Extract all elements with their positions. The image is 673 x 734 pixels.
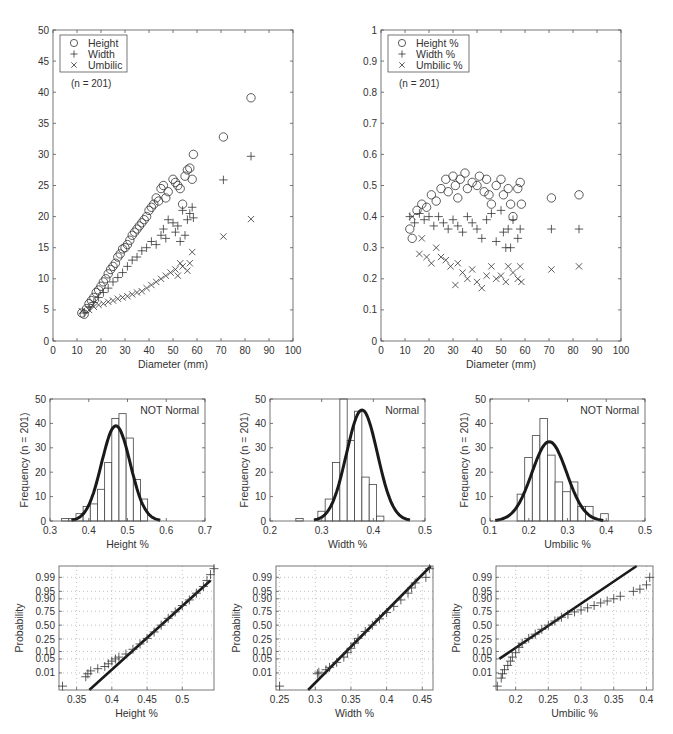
x-tick-label: 100 — [613, 345, 630, 356]
x-tick-label: 0.3 — [308, 694, 322, 705]
y-axis-label: Frequency (n = 201) — [458, 413, 470, 508]
probplot-height-chart: 0.350.40.450.50.010.050.100.250.500.750.… — [13, 564, 219, 719]
plus-marker — [616, 592, 625, 601]
plus-marker — [473, 225, 481, 233]
y-tick-label: 0.99 — [473, 572, 493, 583]
circle-marker — [480, 188, 488, 196]
x-tick-label: 0.3 — [574, 694, 588, 705]
plus-marker — [404, 589, 413, 598]
x-marker — [503, 279, 509, 285]
x-tick-label: 0.4 — [82, 525, 96, 536]
plus-marker — [247, 152, 255, 160]
x-tick-label: 70 — [215, 345, 227, 356]
x-marker — [455, 260, 461, 266]
y-tick-label: 0.25 — [253, 634, 273, 645]
y-axis-label: Probability — [450, 603, 462, 653]
y-tick-label: 0 — [371, 336, 377, 347]
series-umbilic — [79, 216, 255, 314]
y-tick-label: 15 — [38, 242, 50, 253]
x-marker — [134, 289, 140, 295]
x-tick-label: 0.35 — [604, 694, 624, 705]
plus-marker — [497, 206, 505, 214]
y-tick-label: 0.1 — [363, 304, 377, 315]
normality-annotation: NOT Normal — [140, 404, 199, 416]
plus-marker — [444, 225, 452, 233]
x-tick-label: 0 — [378, 345, 384, 356]
y-tick-label: 10 — [35, 491, 47, 502]
x-marker — [518, 279, 524, 285]
x-tick-label: 40 — [471, 345, 483, 356]
histogram-bar — [548, 455, 556, 521]
histogram-bar — [362, 477, 369, 521]
plus-marker — [463, 212, 471, 220]
x-tick-label: 0.35 — [341, 694, 361, 705]
histogram-bar — [532, 436, 540, 521]
x-marker — [124, 293, 130, 299]
plus-marker — [506, 244, 514, 252]
x-tick-label: 0.4 — [640, 694, 654, 705]
x-marker — [447, 263, 453, 269]
scatter-mm-chart: 0102030405060708090100051015202530354045… — [38, 25, 302, 371]
x-marker — [119, 294, 125, 300]
plus-marker — [609, 594, 618, 603]
x-tick-label: 90 — [263, 345, 275, 356]
x-marker — [469, 266, 475, 272]
y-tick-label: 0.25 — [36, 634, 56, 645]
x-tick-label: 0.45 — [413, 694, 433, 705]
x-marker — [464, 276, 470, 282]
histogram-bar — [90, 504, 97, 521]
reference-line — [89, 581, 210, 690]
x-marker — [428, 260, 434, 266]
x-tick-label: 100 — [285, 345, 302, 356]
y-tick-label: 0.50 — [473, 620, 493, 631]
x-tick-label: 0.45 — [137, 694, 157, 705]
circle-marker — [482, 175, 490, 183]
x-tick-label: 0.1 — [483, 525, 497, 536]
x-marker — [517, 263, 523, 269]
x-tick-label: 0.2 — [263, 525, 277, 536]
x-tick-label: 0.2 — [522, 525, 536, 536]
plus-marker — [321, 665, 330, 674]
x-tick-label: 60 — [191, 345, 203, 356]
circle-marker — [461, 169, 469, 177]
x-tick-label: 0.7 — [198, 525, 212, 536]
circle-marker — [406, 225, 414, 233]
plus-marker — [497, 674, 506, 683]
histogram-bar — [555, 482, 563, 521]
y-tick-label: 10 — [475, 491, 487, 502]
plus-marker — [339, 653, 348, 662]
circle-marker — [468, 178, 476, 186]
circle-marker — [219, 133, 227, 141]
x-marker — [95, 302, 101, 308]
x-tick-label: 10 — [399, 345, 411, 356]
x-tick-label: 80 — [239, 345, 251, 356]
circle-marker — [422, 203, 430, 211]
x-tick-label: 0.3 — [561, 525, 575, 536]
plus-marker — [123, 262, 131, 270]
circle-marker — [497, 175, 505, 183]
circle-marker — [444, 188, 452, 196]
y-tick-label: 0.6 — [363, 149, 377, 160]
x-tick-label: 90 — [591, 345, 603, 356]
y-tick-label: 0.10 — [36, 646, 56, 657]
circle-marker — [247, 94, 255, 102]
plus-marker — [343, 648, 352, 657]
plus-marker — [596, 598, 605, 607]
x-tick-label: 0 — [50, 345, 56, 356]
circle-marker — [454, 194, 462, 202]
hist-umbilic-chart: 0.10.20.30.40.501020304050Umbilic %Frequ… — [458, 394, 652, 551]
x-tick-label: 0.35 — [67, 694, 87, 705]
x-marker — [100, 301, 106, 307]
y-tick-label: 20 — [255, 467, 267, 478]
x-tick-label: 30 — [119, 345, 131, 356]
x-marker — [474, 279, 480, 285]
x-tick-label: 0.4 — [366, 525, 380, 536]
plus-marker — [159, 225, 167, 233]
y-tick-label: 0.01 — [36, 667, 56, 678]
x-axis-label: Umbilic % — [551, 707, 598, 719]
plus-marker — [629, 587, 638, 596]
legend: HeightWidthUmbilic — [60, 35, 127, 72]
x-tick-label: 40 — [143, 345, 155, 356]
x-tick-label: 50 — [495, 345, 507, 356]
y-tick-label: 0.3 — [363, 242, 377, 253]
